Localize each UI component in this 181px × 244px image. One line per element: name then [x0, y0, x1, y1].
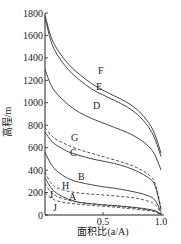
y-axis-label: 高程/m — [1, 107, 13, 138]
y-tick-label: 1400 — [23, 52, 43, 63]
curve-j — [45, 193, 161, 215]
hypsometric-chart: 0200400600800100012001400160018000.51.0 … — [0, 0, 181, 244]
y-tick-label: 1000 — [23, 97, 43, 108]
x-axis-label: 面积比(a/A) — [77, 226, 128, 238]
curve-labels: FEDGCBHAIJ — [50, 65, 104, 213]
y-tick-label: 1800 — [23, 8, 43, 19]
curve-label-e: E — [96, 81, 102, 92]
curve-label-i: I — [50, 189, 53, 200]
axes: 0200400600800100012001400160018000.51.0 — [23, 8, 167, 228]
y-tick-label: 800 — [28, 120, 43, 131]
y-tick-label: 400 — [28, 165, 43, 176]
curve-label-f: F — [98, 65, 104, 76]
curve-f — [45, 15, 161, 153]
curve-d — [45, 69, 161, 170]
curve-label-g: G — [71, 132, 78, 143]
y-tick-label: 600 — [28, 142, 43, 153]
curve-label-c: C — [70, 147, 77, 158]
y-tick-label: 200 — [28, 187, 43, 198]
curve-label-j: J — [53, 202, 57, 213]
curve-label-d: D — [93, 100, 100, 111]
x-tick-label: 1.0 — [155, 216, 168, 227]
y-tick-label: 0 — [38, 210, 43, 221]
curve-label-a: A — [69, 191, 77, 202]
curve-h — [45, 172, 161, 212]
y-tick-label: 1200 — [23, 75, 43, 86]
curve-e — [45, 18, 161, 157]
y-tick-label: 1600 — [23, 30, 43, 41]
curve-label-h: H — [62, 180, 69, 191]
curve-label-b: B — [78, 171, 85, 182]
curve-c — [45, 132, 161, 209]
